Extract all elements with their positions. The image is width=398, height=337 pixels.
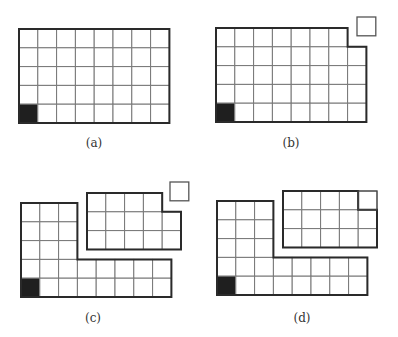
- grid-cell: [19, 29, 38, 48]
- grid-cell: [19, 48, 38, 67]
- grid-cell: [162, 231, 181, 250]
- grid-cell: [115, 259, 134, 278]
- grid-cell: [217, 201, 236, 220]
- grid-cell: [87, 193, 106, 212]
- grid-cell: [329, 84, 348, 103]
- grid-cell: [162, 212, 181, 231]
- grid-cell: [94, 104, 113, 123]
- grid-cell: [235, 103, 254, 122]
- grid-cell: [38, 67, 57, 86]
- grid-cell: [59, 222, 78, 241]
- grid-cell: [321, 191, 340, 210]
- grid-cell: [134, 278, 153, 297]
- grid-cell: [321, 210, 340, 229]
- grid-cell: [216, 28, 235, 47]
- grid-cell: [311, 257, 330, 276]
- grid-cell: [75, 104, 94, 123]
- grid-cell: [77, 259, 96, 278]
- grid-cell: [339, 229, 358, 248]
- grid-cell: [348, 103, 367, 122]
- grid-cell: [329, 66, 348, 85]
- grid-cell: [291, 47, 310, 66]
- grid-cell: [236, 201, 255, 220]
- grid-cell: [283, 210, 302, 229]
- grid-cell: [59, 278, 78, 297]
- grid-cell: [106, 193, 125, 212]
- grid-cell: [235, 66, 254, 85]
- grid-cell: [40, 222, 59, 241]
- grid-cell: [38, 104, 57, 123]
- grid-cell: [151, 67, 170, 86]
- grid-cell: [40, 203, 59, 222]
- grid-cell: [113, 85, 132, 104]
- grid-cell: [254, 103, 273, 122]
- marked-cell: [217, 276, 236, 295]
- grid-cell: [291, 28, 310, 47]
- grid-cell: [57, 67, 76, 86]
- grid-cell: [348, 47, 367, 66]
- floating-cell: [170, 182, 189, 201]
- grid-cell: [113, 48, 132, 67]
- grid-cell: [291, 84, 310, 103]
- grid-cell: [115, 278, 134, 297]
- grid-cell: [57, 85, 76, 104]
- panel-a: [19, 29, 169, 123]
- grid-cell: [330, 257, 349, 276]
- grid-cell: [38, 29, 57, 48]
- grid-cell: [125, 231, 144, 250]
- grid-cell: [310, 103, 329, 122]
- grid-cell: [339, 210, 358, 229]
- grid-cell: [125, 212, 144, 231]
- grid-cell: [216, 66, 235, 85]
- grid-cell: [310, 66, 329, 85]
- grid-cell: [19, 85, 38, 104]
- grid-cell: [302, 210, 321, 229]
- grid-cell: [57, 104, 76, 123]
- panel-c: [21, 182, 189, 297]
- grid-cell: [96, 259, 115, 278]
- grid-cell: [216, 47, 235, 66]
- grid-cell: [272, 66, 291, 85]
- grid-cell: [254, 47, 273, 66]
- tiling-diagram: (a) (b) (c) (d): [0, 0, 398, 337]
- panel-label-b: (b): [282, 136, 299, 150]
- grid-cell: [236, 239, 255, 258]
- grid-cell: [59, 241, 78, 260]
- grid-cell: [329, 28, 348, 47]
- grid-cell: [59, 259, 78, 278]
- grid-cell: [59, 203, 78, 222]
- grid-cell: [40, 259, 59, 278]
- grid-cell: [255, 201, 274, 220]
- grid-cell: [273, 276, 292, 295]
- grid-cell: [216, 84, 235, 103]
- grid-cell: [329, 47, 348, 66]
- grid-cell: [21, 222, 40, 241]
- grid-cell: [113, 67, 132, 86]
- grid-cell: [75, 67, 94, 86]
- inserted-cell: [358, 191, 377, 210]
- grid-cell: [151, 104, 170, 123]
- grid-cell: [292, 257, 311, 276]
- grid-cell: [19, 67, 38, 86]
- grid-cell: [358, 210, 377, 229]
- grid-cell: [87, 212, 106, 231]
- grid-cell: [255, 239, 274, 258]
- grid-cell: [57, 29, 76, 48]
- grid-cell: [321, 229, 340, 248]
- grid-cell: [125, 193, 144, 212]
- grid-cell: [310, 28, 329, 47]
- marked-cell: [21, 278, 40, 297]
- grid-cell: [153, 278, 172, 297]
- grid-cell: [94, 48, 113, 67]
- grid-cell: [349, 257, 368, 276]
- grid-cell: [291, 66, 310, 85]
- grid-cell: [302, 229, 321, 248]
- grid-cell: [310, 84, 329, 103]
- grid-cell: [348, 66, 367, 85]
- grid-cell: [21, 203, 40, 222]
- grid-cell: [40, 278, 59, 297]
- grid-cell: [235, 84, 254, 103]
- grid-cell: [113, 104, 132, 123]
- grid-cell: [151, 29, 170, 48]
- panel-b: [216, 17, 376, 122]
